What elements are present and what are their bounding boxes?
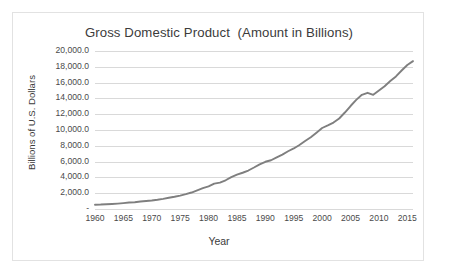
y-axis-tick-labels: 20,000.018,000.016,000.014,000.012,000.0… xyxy=(19,51,89,209)
y-tick-label: 10,000.0 xyxy=(19,124,89,134)
y-tick-label: 12,000.0 xyxy=(19,108,89,118)
y-tick-label: 16,000.0 xyxy=(19,77,89,87)
y-tick-label: 8,000.0 xyxy=(19,140,89,150)
x-tick-label: 2015 xyxy=(387,213,427,223)
gdp-line-series xyxy=(95,61,413,205)
y-tick-label: 20,000.0 xyxy=(19,45,89,55)
y-tick-label: 18,000.0 xyxy=(19,61,89,71)
chart-title: Gross Domestic Product (Amount in Billio… xyxy=(13,25,425,40)
y-tick-label: 14,000.0 xyxy=(19,92,89,102)
y-tick-label: 6,000.0 xyxy=(19,156,89,166)
plot-area xyxy=(95,51,413,209)
y-tick-label: - xyxy=(19,203,89,213)
y-tick-label: 4,000.0 xyxy=(19,171,89,181)
x-axis-tick-labels: 1960196519701975198019851990199520002005… xyxy=(95,213,413,227)
y-tick-label: 2,000.0 xyxy=(19,187,89,197)
data-line-svg xyxy=(95,51,413,209)
x-axis-title: Year xyxy=(13,235,425,247)
chart-figure: Gross Domestic Product (Amount in Billio… xyxy=(12,12,424,261)
gridline xyxy=(95,209,413,210)
